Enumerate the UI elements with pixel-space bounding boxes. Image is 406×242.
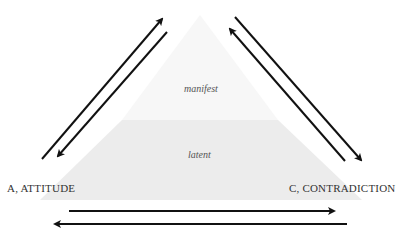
contradiction-label: C, CONTRADICTION — [289, 182, 395, 194]
conflict-triangle-diagram: manifest latent A, ATTITUDE C, CONTRADIC… — [0, 0, 406, 242]
attitude-label: A, ATTITUDE — [7, 182, 75, 194]
triangle-graphic — [0, 0, 406, 242]
latent-label: latent — [188, 149, 211, 160]
manifest-label: manifest — [184, 83, 218, 94]
manifest-region — [122, 15, 278, 120]
